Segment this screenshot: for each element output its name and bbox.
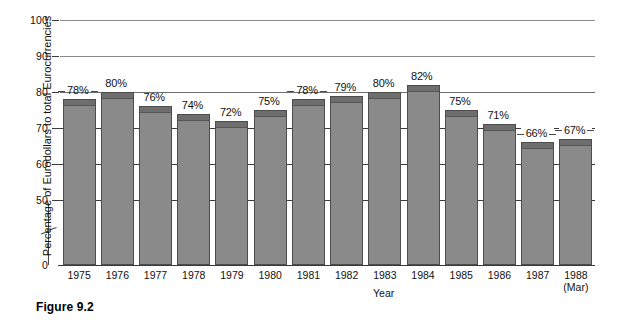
bar-value-label: 78%	[67, 85, 88, 96]
bar-top-cap	[446, 111, 477, 117]
y-axis-tick-mark	[52, 164, 59, 165]
bar-value-label: 80%	[105, 78, 126, 89]
leader-dash-left	[58, 91, 65, 92]
bar-top-cap	[64, 100, 95, 106]
gridline-stub-70	[592, 128, 595, 129]
bar[interactable]	[254, 110, 287, 265]
x-axis-tick-label: 1988(Mar)	[553, 270, 599, 293]
bar-value-label: 78%	[296, 85, 317, 96]
bar[interactable]	[559, 139, 592, 265]
leader-dash-right	[91, 91, 98, 92]
bar-top-cap	[102, 93, 133, 99]
bar-value-label: 79%	[335, 82, 356, 93]
bar-value-label: 82%	[411, 71, 432, 82]
bar-top-cap	[140, 107, 171, 113]
bar-value-label: 71%	[487, 110, 508, 121]
bar[interactable]	[330, 96, 363, 265]
bar-value-label: 74%	[182, 100, 203, 111]
x-axis-title: Year	[373, 287, 394, 299]
bar-top-cap	[255, 111, 286, 117]
y-axis-tick-mark	[52, 92, 59, 93]
x-axis-baseline	[58, 265, 595, 266]
gridline-stub-60	[592, 164, 595, 165]
leader-dash-left	[287, 91, 294, 92]
y-axis-tick-mark	[52, 128, 59, 129]
figure-9-2: 0506070809010078%197580%197676%197774%19…	[0, 0, 617, 322]
bar-value-label: 76%	[144, 92, 165, 103]
bar-value-label: 66%	[526, 128, 547, 139]
bar[interactable]	[101, 92, 134, 265]
leader-dash-right	[320, 91, 327, 92]
gridline-90	[60, 56, 595, 57]
y-axis-tick-label: 0	[0, 260, 48, 271]
bar-top-cap	[522, 143, 553, 149]
figure-caption: Figure 9.2	[36, 300, 94, 314]
bar-value-label: 67%	[564, 125, 585, 136]
bar-value-label: 75%	[449, 96, 470, 107]
bar[interactable]	[177, 114, 210, 265]
gridline-stub-70	[554, 128, 559, 129]
bar[interactable]	[407, 85, 440, 265]
bar-value-label: 80%	[373, 78, 394, 89]
bar[interactable]	[139, 106, 172, 265]
bar-top-cap	[408, 86, 439, 92]
bar-value-label: 72%	[220, 107, 241, 118]
bar[interactable]	[292, 99, 325, 265]
bar[interactable]	[368, 92, 401, 265]
gridline-80	[60, 92, 595, 93]
x-axis-tick-sublabel: (Mar)	[553, 282, 599, 294]
gridline-stub-50	[592, 200, 595, 201]
y-axis-tick-mark	[52, 56, 59, 57]
bar-top-cap	[216, 122, 247, 128]
bar-chart-plot-area: 0506070809010078%197580%197676%197774%19…	[0, 0, 617, 322]
bar-top-cap	[331, 97, 362, 103]
bar[interactable]	[445, 110, 478, 265]
y-axis-tick-mark	[52, 200, 59, 201]
gridline-100	[60, 20, 595, 21]
bar-value-label: 75%	[258, 96, 279, 107]
bar[interactable]	[483, 124, 516, 265]
bar-top-cap	[369, 93, 400, 99]
leader-dash-right	[549, 134, 556, 135]
bar[interactable]	[63, 99, 96, 265]
bar-top-cap	[293, 100, 324, 106]
bar[interactable]	[521, 142, 554, 265]
y-axis-tick-mark	[52, 20, 59, 21]
bar-top-cap	[484, 125, 515, 131]
bar-top-cap	[560, 140, 591, 146]
leader-dash-right	[587, 130, 594, 131]
bar-top-cap	[178, 115, 209, 121]
gridline-stub-70	[516, 128, 521, 129]
y-axis-title: Percentage of Eurodollars to total Euroc…	[41, 11, 53, 261]
leader-dash-left	[517, 134, 524, 135]
leader-dash-left	[555, 130, 562, 131]
bar[interactable]	[215, 121, 248, 265]
